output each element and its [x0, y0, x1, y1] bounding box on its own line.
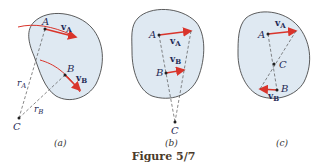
point-b	[165, 72, 168, 75]
label-c: C	[13, 121, 21, 132]
label-b: B	[155, 67, 163, 78]
label-rb: rB	[34, 104, 43, 116]
rigid-body-b	[132, 9, 204, 98]
velocity-vector-b	[260, 89, 277, 90]
figure-canvas: A B C vA vB rA rB (a) A B C vA vB (b) A	[0, 0, 327, 165]
figure-title: Figure 5/7	[0, 150, 327, 163]
point-c	[18, 117, 21, 120]
point-a	[267, 33, 270, 36]
label-ra: rA	[17, 78, 26, 90]
label-b: B	[280, 83, 288, 94]
point-c	[174, 121, 177, 124]
panel-c: A C B vA vB (c)	[238, 12, 310, 148]
panel-a: A B C vA vB rA rB (a)	[13, 13, 102, 148]
label-a: A	[41, 16, 49, 27]
label-c: C	[171, 125, 179, 136]
label-a: A	[148, 29, 156, 40]
point-a	[44, 28, 47, 31]
panel-b: A B C vA vB (b)	[132, 9, 204, 148]
point-c	[273, 63, 276, 66]
label-b: B	[66, 63, 74, 74]
point-a	[158, 34, 161, 37]
caption-b: (b)	[165, 138, 178, 148]
caption-c: (c)	[276, 138, 289, 148]
rigid-body-c	[238, 12, 310, 98]
point-b	[276, 89, 279, 92]
label-c: C	[279, 59, 287, 70]
caption-a: (a)	[54, 138, 67, 148]
label-a: A	[257, 29, 265, 40]
